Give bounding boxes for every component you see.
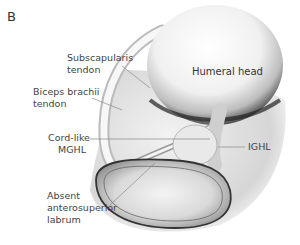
shoulder-anatomy-figure: B Humeral head Subscapularis tendon Bice… bbox=[0, 0, 300, 245]
label-humeral-head: Humeral head bbox=[192, 66, 263, 78]
label-ighl: IGHL bbox=[248, 141, 271, 153]
anatomy-illustration bbox=[0, 0, 300, 245]
label-subscapularis: Subscapularis tendon bbox=[67, 52, 133, 76]
label-mghl: Cord-like MGHL bbox=[48, 132, 86, 156]
panel-letter: B bbox=[7, 9, 16, 24]
label-biceps-brachii: Biceps brachii tendon bbox=[33, 86, 100, 110]
label-absent-labrum: Absent anterosuperior labrum bbox=[47, 190, 117, 226]
